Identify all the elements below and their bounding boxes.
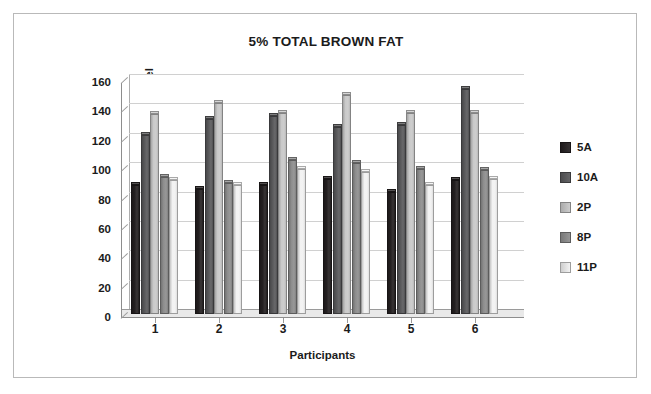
bar [150, 114, 159, 314]
bar-top-face [278, 110, 287, 113]
bar [224, 183, 233, 314]
bar-body [480, 170, 489, 314]
bar [169, 180, 178, 314]
bar-top-face [259, 182, 268, 185]
bar-top-face [425, 182, 434, 185]
bar-top-face [288, 157, 297, 160]
bar-top-face [470, 110, 479, 113]
bar-body [205, 119, 214, 314]
bar-body [269, 116, 278, 314]
bar-top-face [361, 169, 370, 172]
y-axis-tick-mark [121, 77, 128, 84]
bar-top-face [224, 180, 233, 183]
bar-top-face [233, 182, 242, 185]
y-axis-tick-label: 60 [71, 224, 111, 236]
bar-body [278, 113, 287, 314]
legend-item-10a[interactable]: 10A [560, 162, 630, 192]
y-axis-tick-label: 0 [71, 312, 111, 324]
bar-body [451, 180, 460, 314]
y-axis-tick-label: 140 [71, 106, 111, 118]
legend-label: 5A [577, 141, 592, 153]
bar-body [233, 185, 242, 314]
bar-body [397, 125, 406, 314]
bar-top-face [342, 92, 351, 95]
bar-top-face [141, 132, 150, 135]
bar [323, 179, 332, 314]
bar-body [131, 185, 140, 314]
bar-body [288, 160, 297, 314]
x-axis-tick-label: 6 [445, 322, 505, 336]
bar-top-face [397, 122, 406, 125]
bar-top-face [205, 116, 214, 119]
bar-top-face [297, 166, 306, 169]
plot-area: Blood Glucose Level 16014012010080604020… [121, 74, 524, 322]
legend-swatch-icon [560, 262, 571, 273]
bar-top-face [352, 160, 361, 163]
bar-body [361, 172, 370, 314]
y-axis-tick-label: 160 [71, 77, 111, 89]
bar-body [470, 113, 479, 314]
bar [406, 113, 415, 314]
bar-top-face [150, 111, 159, 114]
bar [259, 185, 268, 314]
bar-top-face [480, 167, 489, 170]
x-axis-tick-label: 3 [253, 322, 313, 336]
bar [361, 172, 370, 314]
y-axis-tick-label: 40 [71, 253, 111, 265]
bar-body [195, 189, 204, 314]
bar-top-face [451, 177, 460, 180]
bar [131, 185, 140, 314]
bar [333, 127, 342, 314]
bar-body [323, 179, 332, 314]
bar-body [342, 95, 351, 314]
legend-label: 11P [577, 261, 597, 273]
bar [461, 89, 470, 314]
bar [416, 169, 425, 314]
bar [278, 113, 287, 314]
legend-item-8p[interactable]: 8P [560, 222, 630, 252]
bar-top-face [406, 110, 415, 113]
y-axis-tick-label: 80 [71, 195, 111, 207]
bar [205, 119, 214, 314]
legend-item-11p[interactable]: 11P [560, 252, 630, 282]
bar [233, 185, 242, 314]
bar-top-face [169, 177, 178, 180]
bar-top-face [333, 124, 342, 127]
bar-body [425, 185, 434, 314]
bar [141, 135, 150, 314]
bar-top-face [461, 86, 470, 89]
bar-body [141, 135, 150, 314]
bar [352, 163, 361, 314]
legend-label: 10A [577, 171, 598, 183]
y-axis-tick-label: 100 [71, 165, 111, 177]
legend-item-2p[interactable]: 2P [560, 192, 630, 222]
chart-title: 5% TOTAL BROWN FAT [14, 34, 638, 49]
bar-body [489, 179, 498, 314]
legend-swatch-icon [560, 142, 571, 153]
bar [214, 103, 223, 315]
bar-top-face [489, 176, 498, 179]
legend-swatch-icon [560, 232, 571, 243]
legend-label: 2P [577, 201, 591, 213]
bar-body [150, 114, 159, 314]
bar [489, 179, 498, 314]
legend-swatch-icon [560, 172, 571, 183]
y-axis-tick-label: 20 [71, 283, 111, 295]
bar-body [169, 180, 178, 314]
bar-body [461, 89, 470, 314]
bar-body [416, 169, 425, 314]
bar [451, 180, 460, 314]
bar-body [333, 127, 342, 314]
bar-body [214, 103, 223, 315]
bar-top-face [269, 113, 278, 116]
bar-body [297, 169, 306, 314]
legend-item-5a[interactable]: 5A [560, 132, 630, 162]
bar [425, 185, 434, 314]
bar-top-face [323, 176, 332, 179]
bar-top-face [387, 189, 396, 192]
bar-top-face [416, 166, 425, 169]
x-axis-tick-label: 5 [381, 322, 441, 336]
x-axis-title: Participants [121, 349, 524, 361]
legend-swatch-icon [560, 202, 571, 213]
bar [297, 169, 306, 314]
